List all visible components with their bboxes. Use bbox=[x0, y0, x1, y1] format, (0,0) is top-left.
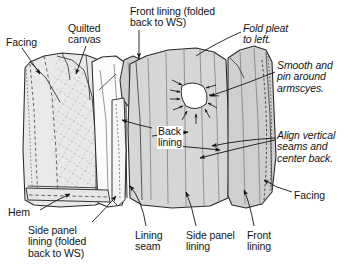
callout-side-panel-lining: Side panel lining bbox=[186, 230, 235, 253]
callout-facing-left: Facing bbox=[6, 37, 37, 48]
callout-fold-pleat: Fold pleat to left. bbox=[243, 23, 288, 46]
side-panel-lining-fold bbox=[112, 98, 126, 206]
callout-hem: Hem bbox=[8, 207, 30, 218]
callout-side-panel-lining-folded: Side panel lining (folded back to WS) bbox=[28, 225, 86, 259]
right-side-panel bbox=[228, 46, 276, 208]
callout-quilted-canvas: Quilted canvas bbox=[68, 23, 101, 46]
callout-lining-seam: Lining seam bbox=[135, 230, 162, 253]
callout-back-lining: Back lining bbox=[157, 126, 183, 149]
callout-front-lining-folded: Front lining (folded back to WS) bbox=[130, 6, 215, 29]
callout-facing-right: Facing bbox=[294, 190, 325, 201]
callout-align-vertical-seams: Align vertical seams and center back. bbox=[277, 130, 335, 164]
callout-front-lining: Front lining bbox=[247, 230, 271, 253]
diagram-canvas: Facing Quilted canvas Front lining (fold… bbox=[0, 0, 354, 274]
callout-smooth-pin-armscyes: Smooth and pin around armscyes. bbox=[277, 60, 333, 94]
